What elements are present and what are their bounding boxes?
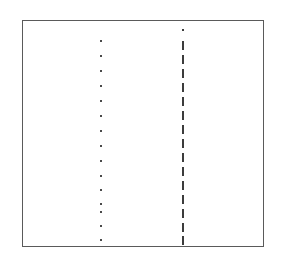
figure-canvas	[0, 0, 281, 262]
plot-border	[22, 20, 264, 247]
